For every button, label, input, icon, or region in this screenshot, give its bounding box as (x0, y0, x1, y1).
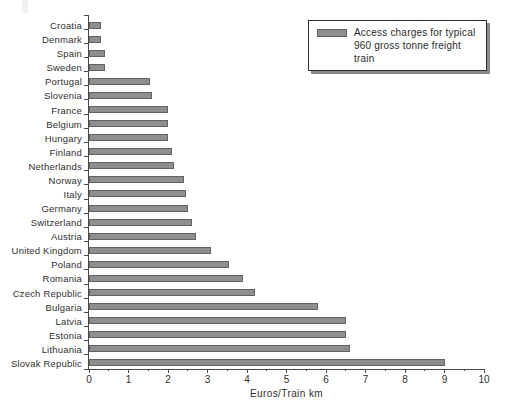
y-tick (84, 326, 88, 327)
bar-row: Bulgaria (89, 300, 484, 314)
y-tick (84, 255, 88, 256)
y-tick (84, 114, 88, 115)
x-axis-label: Euros/Train km (250, 388, 323, 399)
y-tick (84, 199, 88, 200)
bar (89, 261, 229, 268)
category-label: France (51, 104, 82, 115)
x-tick-label: 3 (205, 374, 211, 385)
y-tick (84, 170, 88, 171)
bar (89, 36, 101, 43)
category-label: Finland (49, 146, 82, 157)
y-tick (84, 354, 88, 355)
x-tick-label: 6 (323, 374, 329, 385)
bar (89, 219, 192, 226)
bar (89, 176, 184, 183)
x-tick-label: 0 (86, 374, 92, 385)
category-label: Slovenia (44, 90, 82, 101)
y-tick (84, 29, 88, 30)
category-label: Belgium (46, 118, 82, 129)
y-tick (84, 284, 88, 285)
y-tick (84, 57, 88, 58)
bar-row: Lithuania (89, 342, 484, 356)
bar (89, 275, 243, 282)
bar (89, 205, 188, 212)
bar (89, 106, 168, 113)
bar-row: Austria (89, 229, 484, 243)
bar-row: Romania (89, 271, 484, 285)
bar (89, 190, 186, 197)
legend-swatch-icon (317, 29, 347, 37)
bar-row: Hungary (89, 131, 484, 145)
category-label: Netherlands (29, 160, 82, 171)
x-tick-label: 4 (244, 374, 250, 385)
bar-row: Estonia (89, 328, 484, 342)
y-tick (84, 298, 88, 299)
y-tick (84, 128, 88, 129)
y-tick (84, 15, 88, 16)
x-tick-label: 5 (284, 374, 290, 385)
x-tick-label: 1 (126, 374, 132, 385)
category-label: Austria (51, 231, 82, 242)
x-tick-label: 8 (402, 374, 408, 385)
y-tick (84, 241, 88, 242)
category-label: Norway (49, 174, 82, 185)
bar (89, 78, 150, 85)
category-label: Switzerland (31, 217, 82, 228)
y-tick (84, 369, 88, 370)
category-label: Slovak Republic (11, 357, 82, 368)
category-label: Hungary (45, 132, 82, 143)
legend-label-line1: Access charges for typical (354, 27, 475, 38)
figure: CroatiaDenmarkSpainSwedenPortugalSloveni… (0, 0, 505, 417)
bar (89, 331, 346, 338)
y-tick (84, 184, 88, 185)
y-tick (84, 269, 88, 270)
x-tick-label: 9 (442, 374, 448, 385)
bar (89, 233, 196, 240)
scan-artifact (22, 0, 28, 13)
y-tick (84, 99, 88, 100)
legend-label: Access charges for typical 960 gross ton… (354, 26, 478, 65)
bar (89, 162, 174, 169)
bar-row: Netherlands (89, 159, 484, 173)
category-label: Italy (64, 188, 82, 199)
category-label: Croatia (50, 20, 82, 31)
bar-row: Finland (89, 145, 484, 159)
x-tick-label: 2 (165, 374, 171, 385)
category-label: Lithuania (42, 343, 82, 354)
bar-row: Belgium (89, 117, 484, 131)
bar-row: Switzerland (89, 215, 484, 229)
category-label: Bulgaria (46, 301, 82, 312)
category-label: Portugal (45, 76, 82, 87)
bar (89, 50, 105, 57)
y-tick (84, 227, 88, 228)
bar-row: France (89, 102, 484, 116)
category-label: Latvia (55, 315, 82, 326)
legend: Access charges for typical 960 gross ton… (308, 20, 487, 71)
bar (89, 92, 152, 99)
bar-row: Italy (89, 187, 484, 201)
y-tick (84, 340, 88, 341)
bar (89, 289, 255, 296)
bar (89, 134, 168, 141)
category-label: Romania (43, 273, 82, 284)
bar (89, 247, 211, 254)
bar (89, 22, 101, 29)
category-label: Estonia (49, 329, 82, 340)
legend-label-line2: 960 gross tonne freight train (354, 40, 461, 64)
bar-row: Slovenia (89, 88, 484, 102)
category-label: United Kingdom (12, 245, 82, 256)
bar (89, 120, 168, 127)
y-tick (84, 71, 88, 72)
y-tick (84, 85, 88, 86)
bar (89, 148, 172, 155)
y-tick (84, 43, 88, 44)
category-label: Poland (51, 259, 82, 270)
y-tick (84, 142, 88, 143)
y-tick (84, 156, 88, 157)
bar-row: Czech Republic (89, 285, 484, 299)
y-tick (84, 213, 88, 214)
y-tick (84, 312, 88, 313)
bar-row: Norway (89, 173, 484, 187)
bar (89, 64, 105, 71)
bar-row: Germany (89, 201, 484, 215)
